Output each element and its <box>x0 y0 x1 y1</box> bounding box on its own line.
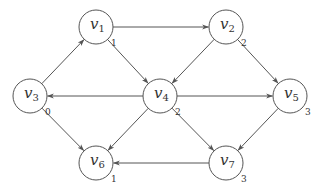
node-subscript: 4 <box>162 92 168 103</box>
node-subscript: 3 <box>32 92 38 103</box>
node-v7: v73 <box>209 146 247 184</box>
edge-v5-v7 <box>238 108 278 150</box>
node-value-label: 1 <box>111 38 117 48</box>
node-v5: v53 <box>273 79 311 117</box>
node-value-label: 2 <box>241 38 247 48</box>
node-value-label: 3 <box>241 174 247 184</box>
node-subscript: 7 <box>228 159 234 170</box>
edge-v2-v4 <box>172 39 214 83</box>
node-v4: v42 <box>143 79 181 117</box>
edge-v3-v1 <box>42 40 84 84</box>
node-subscript: 6 <box>98 159 104 170</box>
node-v1: v11 <box>79 10 117 48</box>
node-v2: v22 <box>209 10 247 48</box>
node-subscript: 1 <box>98 23 104 34</box>
node-value-label: 2 <box>175 107 181 117</box>
nodes: v11v22v30v42v53v61v73 <box>13 10 311 184</box>
node-v3: v30 <box>13 79 51 117</box>
node-value-label: 3 <box>305 107 311 117</box>
directed-graph: v11v22v30v42v53v61v73 <box>0 0 323 190</box>
node-subscript: 5 <box>292 92 298 103</box>
node-subscript: 2 <box>228 23 234 34</box>
node-v6: v61 <box>79 146 117 184</box>
node-value-label: 0 <box>45 107 51 117</box>
node-value-label: 1 <box>111 174 117 184</box>
edge-v4-v6 <box>108 108 148 150</box>
